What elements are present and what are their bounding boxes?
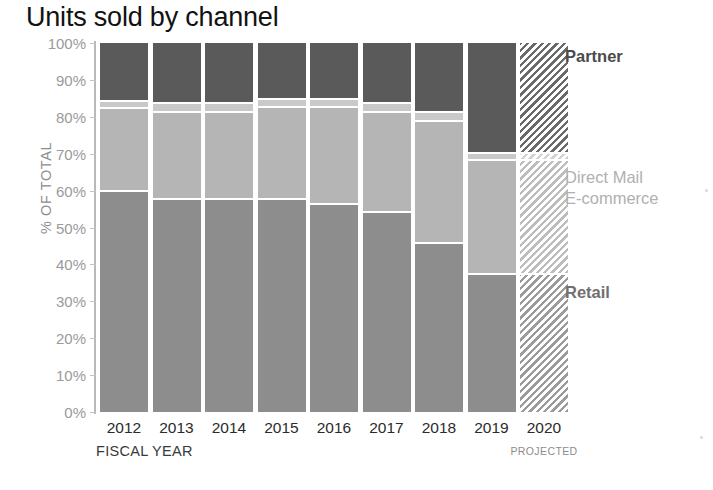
bar-segment-ecommerce[interactable] bbox=[100, 109, 148, 192]
bar-2015[interactable] bbox=[258, 43, 306, 412]
bar-segment-direct-mail[interactable] bbox=[363, 104, 411, 113]
bar-2019[interactable] bbox=[468, 43, 516, 412]
x-axis-tick-label-2015: 2015 bbox=[252, 419, 312, 437]
chart-container: Units sold by channel % OF TOTAL 0%10%20… bbox=[0, 0, 713, 490]
bar-segment-retail[interactable] bbox=[520, 275, 568, 412]
legend-label-direct-mail: Direct Mail bbox=[565, 167, 659, 188]
bar-segment-retail[interactable] bbox=[258, 200, 306, 412]
bar-segment-ecommerce[interactable] bbox=[415, 122, 463, 244]
bar-segment-direct-mail[interactable] bbox=[205, 104, 253, 113]
bar-segment-partner[interactable] bbox=[153, 43, 201, 104]
chart-title: Units sold by channel bbox=[26, 2, 278, 33]
bar-segment-retail[interactable] bbox=[415, 244, 463, 412]
bar-segment-retail[interactable] bbox=[363, 213, 411, 412]
y-axis-tick-label: 50% bbox=[30, 219, 86, 236]
bar-segment-partner[interactable] bbox=[258, 43, 306, 100]
x-axis-tick-label-2020: 2020 bbox=[514, 419, 574, 437]
bar-segment-direct-mail[interactable] bbox=[310, 100, 358, 107]
x-axis-tick-label-2019: 2019 bbox=[462, 419, 522, 437]
x-axis-tick-label-2018: 2018 bbox=[409, 419, 469, 437]
y-axis-tick-label: 40% bbox=[30, 256, 86, 273]
bar-segment-ecommerce[interactable] bbox=[205, 113, 253, 200]
y-axis-tick-label: 70% bbox=[30, 145, 86, 162]
legend-item-direct-mail-ecommerce: Direct Mail E-commerce bbox=[565, 167, 659, 209]
x-axis-tick-label-2012: 2012 bbox=[94, 419, 154, 437]
bar-segment-retail[interactable] bbox=[468, 275, 516, 412]
legend-label-ecommerce: E-commerce bbox=[565, 188, 659, 209]
bar-segment-direct-mail[interactable] bbox=[153, 104, 201, 113]
legend-item-partner: Partner bbox=[565, 46, 623, 67]
x-axis-tick-label-2016: 2016 bbox=[304, 419, 364, 437]
bar-segment-retail[interactable] bbox=[100, 192, 148, 412]
y-axis-tick-label: 60% bbox=[30, 182, 86, 199]
bar-segment-retail[interactable] bbox=[205, 200, 253, 412]
legend-item-retail: Retail bbox=[565, 282, 610, 303]
scan-speck bbox=[705, 189, 708, 192]
projected-note: PROJECTED bbox=[504, 445, 584, 457]
bar-segment-direct-mail[interactable] bbox=[415, 113, 463, 122]
bar-segment-partner[interactable] bbox=[310, 43, 358, 100]
bar-segment-ecommerce[interactable] bbox=[258, 108, 306, 200]
bar-segment-direct-mail[interactable] bbox=[520, 154, 568, 161]
bar-segment-ecommerce[interactable] bbox=[310, 108, 358, 206]
bar-2016[interactable] bbox=[310, 43, 358, 412]
bar-segment-ecommerce[interactable] bbox=[468, 161, 516, 275]
bar-2018[interactable] bbox=[415, 43, 463, 412]
bar-2013[interactable] bbox=[153, 43, 201, 412]
bar-segment-retail[interactable] bbox=[310, 205, 358, 412]
y-axis-tick-label: 0% bbox=[30, 404, 86, 421]
bar-segment-partner[interactable] bbox=[363, 43, 411, 104]
bar-segment-partner[interactable] bbox=[468, 43, 516, 154]
bar-2012[interactable] bbox=[100, 43, 148, 412]
x-axis-tick-label-2017: 2017 bbox=[357, 419, 417, 437]
y-axis-tick-label: 90% bbox=[30, 71, 86, 88]
bar-2017[interactable] bbox=[363, 43, 411, 412]
y-axis-tick-label: 80% bbox=[30, 108, 86, 125]
y-axis-tick-mark bbox=[90, 412, 96, 413]
bar-segment-ecommerce[interactable] bbox=[520, 161, 568, 275]
bar-segment-partner[interactable] bbox=[415, 43, 463, 113]
y-axis-tick-label: 10% bbox=[30, 367, 86, 384]
x-axis-title: FISCAL YEAR bbox=[96, 443, 193, 459]
y-axis-tick-label: 20% bbox=[30, 330, 86, 347]
bar-segment-direct-mail[interactable] bbox=[100, 102, 148, 109]
y-axis-tick-label: 30% bbox=[30, 293, 86, 310]
bar-segment-ecommerce[interactable] bbox=[363, 113, 411, 213]
y-axis-tick-label: 100% bbox=[30, 35, 86, 52]
bar-segment-partner[interactable] bbox=[520, 43, 568, 154]
bar-segment-partner[interactable] bbox=[100, 43, 148, 102]
plot-area bbox=[96, 43, 568, 412]
bar-segment-direct-mail[interactable] bbox=[468, 154, 516, 161]
bar-segment-retail[interactable] bbox=[153, 200, 201, 412]
x-axis-tick-label-2014: 2014 bbox=[199, 419, 259, 437]
bar-2020[interactable] bbox=[520, 43, 568, 412]
scan-speck bbox=[700, 436, 703, 439]
bar-segment-ecommerce[interactable] bbox=[153, 113, 201, 200]
bar-2014[interactable] bbox=[205, 43, 253, 412]
bar-segment-direct-mail[interactable] bbox=[258, 100, 306, 107]
bar-segment-partner[interactable] bbox=[205, 43, 253, 104]
x-axis-tick-label-2013: 2013 bbox=[147, 419, 207, 437]
